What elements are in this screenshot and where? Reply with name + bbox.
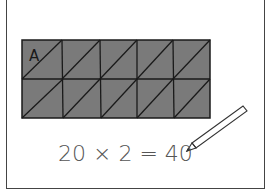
equation-text: 20 × 2 = 40 [58, 141, 193, 166]
cell-label-a: A [29, 47, 40, 65]
